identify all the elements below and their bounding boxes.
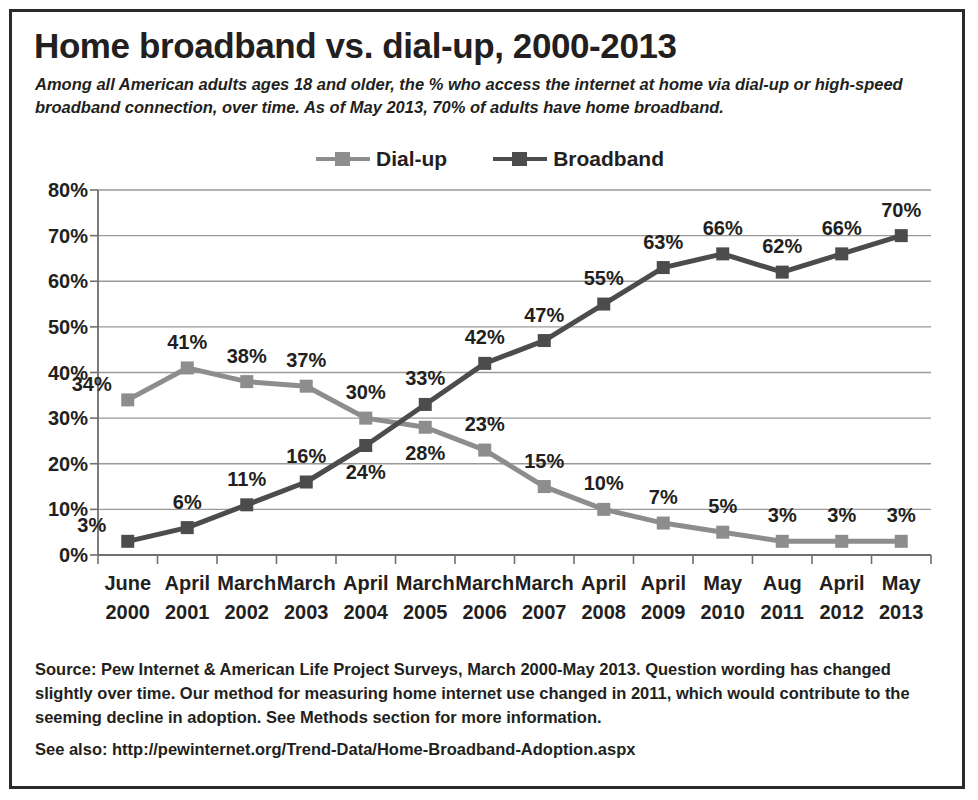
data-point-marker[interactable] [597,503,610,516]
x-axis-tick-month: April [581,569,627,598]
data-point-marker[interactable] [597,298,610,311]
data-point-marker[interactable] [716,526,729,539]
x-axis-tick-month: May [879,569,924,598]
x-axis-tick-month: May [701,569,746,598]
x-axis-tick-year: 2010 [701,598,746,627]
data-point-label: 42% [465,326,505,349]
data-point-marker[interactable] [240,375,253,388]
x-axis-tick-year: 2003 [277,598,336,627]
x-axis-tick-year: 2004 [343,598,389,627]
x-axis-tick-label: April2001 [164,569,210,627]
x-axis-tick-month: March [217,569,276,598]
data-point-marker[interactable] [181,521,194,534]
x-axis-tick-label: April2004 [343,569,389,627]
data-point-label: 66% [703,216,743,239]
data-point-label: 3% [768,504,797,527]
data-point-marker[interactable] [240,498,253,511]
data-point-label: 23% [465,413,505,436]
x-axis-tick-month: April [343,569,389,598]
data-point-marker[interactable] [300,476,313,489]
data-point-marker[interactable] [538,480,551,493]
x-axis-tick-label: March2007 [515,569,574,627]
data-point-marker[interactable] [300,380,313,393]
x-axis-tick-label: March2003 [277,569,336,627]
data-point-marker[interactable] [716,247,729,260]
data-point-label: 63% [643,230,683,253]
data-point-label: 15% [524,449,564,472]
data-point-label: 37% [286,349,326,372]
data-point-marker[interactable] [419,398,432,411]
x-axis-tick-label: April2012 [819,569,865,627]
data-point-label: 6% [173,490,202,513]
x-axis-tick-month: March [515,569,574,598]
x-axis-tick-month: June [104,569,151,598]
data-point-label: 41% [167,330,207,353]
data-point-label: 28% [405,442,445,465]
data-point-marker[interactable] [419,421,432,434]
x-axis-tick-label: March2002 [217,569,276,627]
data-point-label: 62% [762,235,802,258]
data-point-marker[interactable] [359,412,372,425]
x-axis-tick-label: Aug2011 [761,569,804,627]
x-axis-tick-year: 2012 [819,598,865,627]
data-point-label: 55% [584,267,624,290]
data-point-label: 3% [827,504,856,527]
data-point-marker[interactable] [657,261,670,274]
data-point-marker[interactable] [776,266,789,279]
x-axis-tick-label: April2008 [581,569,627,627]
data-point-label: 66% [822,216,862,239]
x-axis-tick-label: March2006 [455,569,514,627]
x-axis-tick-label: April2009 [640,569,686,627]
data-point-label: 10% [584,472,624,495]
data-point-marker[interactable] [895,229,908,242]
x-axis-tick-label: June2000 [104,569,151,627]
x-axis-tick-year: 2009 [640,598,686,627]
data-point-label: 24% [346,460,386,483]
figure-frame: Home broadband vs. dial-up, 2000-2013 Am… [9,9,965,789]
x-axis-tick-label: March2005 [396,569,455,627]
data-point-label: 16% [286,445,326,468]
x-axis-tick-year: 2001 [164,598,210,627]
data-point-marker[interactable] [121,535,134,548]
x-axis-tick-month: April [819,569,865,598]
x-axis-tick-year: 2013 [879,598,924,627]
data-point-label: 38% [227,344,267,367]
data-point-label: 3% [887,504,916,527]
data-point-marker[interactable] [121,393,134,406]
data-point-label: 70% [881,198,921,221]
see-also-note: See also: http://pewinternet.org/Trend-D… [35,738,941,762]
data-point-marker[interactable] [895,535,908,548]
x-axis-tick-month: March [455,569,514,598]
x-axis-tick-year: 2002 [217,598,276,627]
data-point-marker[interactable] [835,247,848,260]
x-axis-tick-year: 2005 [396,598,455,627]
data-point-marker[interactable] [181,361,194,374]
x-axis-tick-month: Aug [761,569,804,598]
data-point-marker[interactable] [359,439,372,452]
data-point-marker[interactable] [538,334,551,347]
y-axis-tick-label: 30% [26,407,88,430]
y-axis-tick-label: 70% [26,224,88,247]
data-point-label: 7% [649,486,678,509]
x-axis-tick-label: May2010 [701,569,746,627]
y-axis-tick-label: 0% [26,544,88,567]
x-axis-tick-month: April [164,569,210,598]
data-point-label: 3% [77,514,106,537]
y-axis-tick-label: 60% [26,270,88,293]
data-point-label: 34% [72,372,112,395]
x-axis-tick-year: 2006 [455,598,514,627]
x-axis-tick-label: May2013 [879,569,924,627]
x-axis-tick-month: March [277,569,336,598]
data-point-marker[interactable] [835,535,848,548]
x-axis-tick-year: 2008 [581,598,627,627]
y-axis-tick-label: 50% [26,315,88,338]
figure-root: Home broadband vs. dial-up, 2000-2013 Am… [0,0,978,800]
data-point-label: 33% [405,367,445,390]
data-point-marker[interactable] [657,517,670,530]
y-axis-tick-label: 80% [26,179,88,202]
data-point-marker[interactable] [776,535,789,548]
x-axis-tick-year: 2000 [104,598,151,627]
data-point-marker[interactable] [478,357,491,370]
data-point-marker[interactable] [478,444,491,457]
x-axis-tick-month: April [640,569,686,598]
